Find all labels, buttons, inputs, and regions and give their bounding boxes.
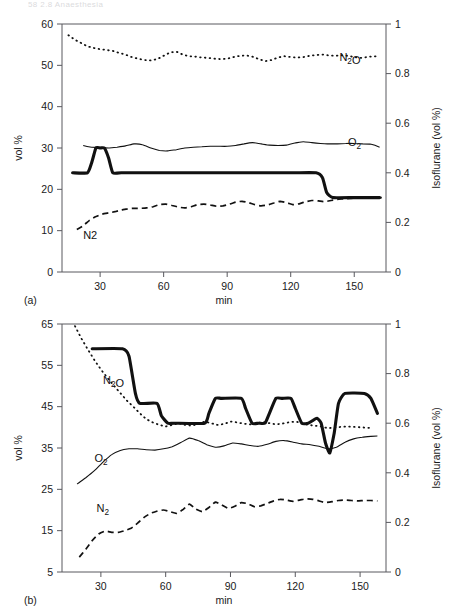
y-ticklabel-left: 20	[41, 183, 53, 195]
y-ticklabel-right: 0.4	[395, 467, 410, 479]
y-ticklabel-left: 15	[41, 524, 53, 536]
y-ticklabel-right: 0.8	[395, 367, 410, 379]
x-axis-title: min	[216, 594, 233, 606]
chart-b: 5152535455565vol %00.20.40.60.81Isoflura…	[0, 310, 454, 610]
panel-letter: (a)	[24, 294, 37, 306]
y-axis-right: 00.20.40.60.81Isoflurane (vol %)	[386, 18, 442, 278]
y-ticklabel-left: 10	[41, 224, 53, 236]
y-axis-title-right: Isoflurane (vol %)	[430, 107, 442, 189]
y-axis-title-left: vol %	[12, 435, 24, 461]
x-ticklabel: 120	[287, 580, 305, 592]
y-ticklabel-right: 0	[395, 566, 401, 578]
x-axis-title: min	[216, 294, 233, 306]
y-ticklabel-left: 65	[41, 318, 53, 330]
y-ticklabel-left: 25	[41, 483, 53, 495]
panel-letter: (b)	[24, 594, 37, 606]
y-ticklabel-left: 0	[47, 266, 53, 278]
series-label: N2	[97, 502, 110, 517]
y-ticklabel-right: 0.2	[395, 516, 410, 528]
scan-page-header: 58 2.8 Anaesthesia	[28, 0, 248, 9]
series-label: O2	[348, 136, 362, 151]
axis-spines	[62, 324, 386, 572]
y-ticklabel-right: 1	[395, 18, 401, 30]
y-ticklabel-right: 0.8	[395, 67, 410, 79]
y-ticklabel-right: 1	[395, 318, 401, 330]
x-ticklabel: 150	[351, 580, 369, 592]
y-axis-left: 5152535455565vol %	[12, 318, 62, 578]
x-ticklabel: 60	[158, 280, 170, 292]
y-ticklabel-left: 60	[41, 18, 53, 30]
x-axis: 306090120150min	[94, 272, 363, 306]
x-axis: 306090120150min	[95, 572, 369, 606]
x-ticklabel: 90	[225, 580, 237, 592]
series-label: O2	[94, 452, 108, 467]
series-annotations: N2OO2N2	[94, 374, 124, 517]
series-label: N2O	[103, 374, 125, 389]
y-ticklabel-left: 50	[41, 59, 53, 71]
series-group	[75, 326, 377, 557]
chart-a: 0102030405060vol %00.20.40.60.81Isoflura…	[0, 10, 454, 310]
x-ticklabel: 120	[282, 280, 300, 292]
series-isoflurane-line	[73, 147, 380, 197]
series-label: N2	[83, 229, 97, 241]
x-ticklabel: 30	[94, 280, 106, 292]
series-label: N2O	[339, 51, 361, 66]
plot-frame	[62, 324, 386, 572]
y-axis-left: 0102030405060vol %	[12, 18, 62, 278]
y-ticklabel-left: 35	[41, 442, 53, 454]
x-ticklabel: 30	[95, 580, 107, 592]
series-o2-line	[83, 142, 379, 151]
chart-panel-a: 0102030405060vol %00.20.40.60.81Isoflura…	[0, 10, 454, 310]
x-ticklabel: 150	[345, 280, 363, 292]
figure-page: 58 2.8 Anaesthesia 0102030405060vol %00.…	[0, 0, 454, 610]
series-n2-line	[79, 499, 377, 557]
y-ticklabel-left: 5	[47, 566, 53, 578]
y-ticklabel-left: 40	[41, 100, 53, 112]
y-ticklabel-right: 0	[395, 266, 401, 278]
series-n2o-line	[68, 35, 379, 61]
series-isoflurane-line	[92, 349, 377, 454]
y-ticklabel-right: 0.4	[395, 167, 410, 179]
y-ticklabel-right: 0.2	[395, 216, 410, 228]
y-ticklabel-left: 30	[41, 142, 53, 154]
y-ticklabel-right: 0.6	[395, 417, 410, 429]
chart-panel-b: 5152535455565vol %00.20.40.60.81Isoflura…	[0, 310, 454, 610]
y-axis-title-right: Isoflurane (vol %)	[430, 407, 442, 489]
y-ticklabel-left: 45	[41, 400, 53, 412]
series-group	[68, 35, 381, 229]
series-n2-line	[77, 198, 382, 230]
y-ticklabel-left: 55	[41, 359, 53, 371]
x-ticklabel: 90	[221, 280, 233, 292]
y-ticklabel-right: 0.6	[395, 117, 410, 129]
y-axis-title-left: vol %	[12, 135, 24, 161]
x-ticklabel: 60	[160, 580, 172, 592]
y-axis-right: 00.20.40.60.81Isoflurane (vol %)	[386, 318, 442, 578]
